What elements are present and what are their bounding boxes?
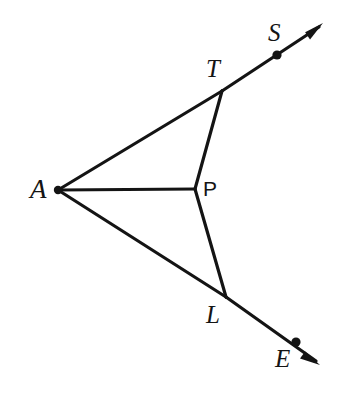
vertex-label-e: E: [275, 346, 290, 371]
vertex-label-s: S: [268, 20, 281, 45]
geometry-figure: A T P L S E: [0, 0, 349, 397]
vertex-label-l: L: [206, 302, 220, 327]
vertex-dot-s: [272, 50, 281, 59]
segments-group: [58, 91, 226, 297]
vertex-label-p: P: [203, 178, 217, 199]
segment-a-p: [58, 189, 195, 190]
vertex-label-t: T: [206, 56, 220, 81]
vertex-dot-e: [291, 337, 300, 346]
vertex-dots-group: [54, 50, 301, 346]
vertex-label-a: A: [30, 176, 47, 203]
ray-l-e: [226, 297, 316, 361]
arrowhead-s-icon: [305, 23, 323, 40]
rays-group: [222, 23, 323, 365]
figure-canvas: [0, 0, 349, 397]
vertex-dot-a: [54, 186, 62, 194]
